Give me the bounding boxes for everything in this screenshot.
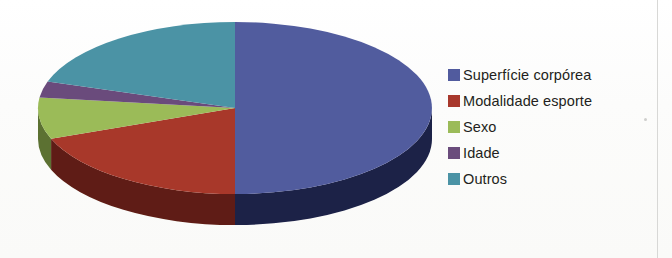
legend-swatch-modalidade-esporte: [448, 95, 460, 107]
page-border-rule: [657, 0, 658, 258]
legend-item-idade[interactable]: Idade: [448, 140, 648, 166]
legend-item-modalidade-esporte[interactable]: Modalidade esporte: [448, 88, 648, 114]
legend-label-superficie-corporea: Superfície corpórea: [463, 68, 591, 83]
legend-item-outros[interactable]: Outros: [448, 166, 648, 192]
legend-swatch-idade: [448, 147, 460, 159]
legend-label-sexo: Sexo: [463, 120, 496, 135]
legend-swatch-sexo: [448, 121, 460, 133]
legend-label-idade: Idade: [463, 146, 500, 161]
legend-item-sexo[interactable]: Sexo: [448, 114, 648, 140]
legend-item-superficie-corporea[interactable]: Superfície corpórea: [448, 62, 648, 88]
legend-label-modalidade-esporte: Modalidade esporte: [463, 94, 592, 109]
chart-legend: Superfície corpórea Modalidade esporte S…: [448, 62, 648, 192]
legend-swatch-outros: [448, 173, 460, 185]
legend-label-outros: Outros: [463, 172, 507, 187]
pie-svg: [0, 0, 450, 258]
chart-plot-area: [0, 0, 450, 258]
legend-swatch-superficie-corporea: [448, 69, 460, 81]
scan-artifact-speck: [644, 118, 647, 121]
pie-top-faces: [38, 22, 432, 194]
pie-chart-figure: Superfície corpórea Modalidade esporte S…: [0, 0, 672, 258]
